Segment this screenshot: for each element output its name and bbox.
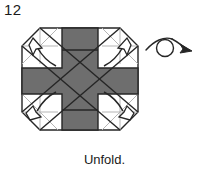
turnover-loop-circle	[157, 40, 174, 57]
turnover-arrowhead-solid	[180, 44, 192, 53]
step-caption: Unfold.	[0, 152, 209, 167]
origami-step-figure: 12	[0, 0, 209, 173]
origami-diagram-svg	[0, 0, 209, 173]
turn-over-arrow	[146, 38, 192, 56]
